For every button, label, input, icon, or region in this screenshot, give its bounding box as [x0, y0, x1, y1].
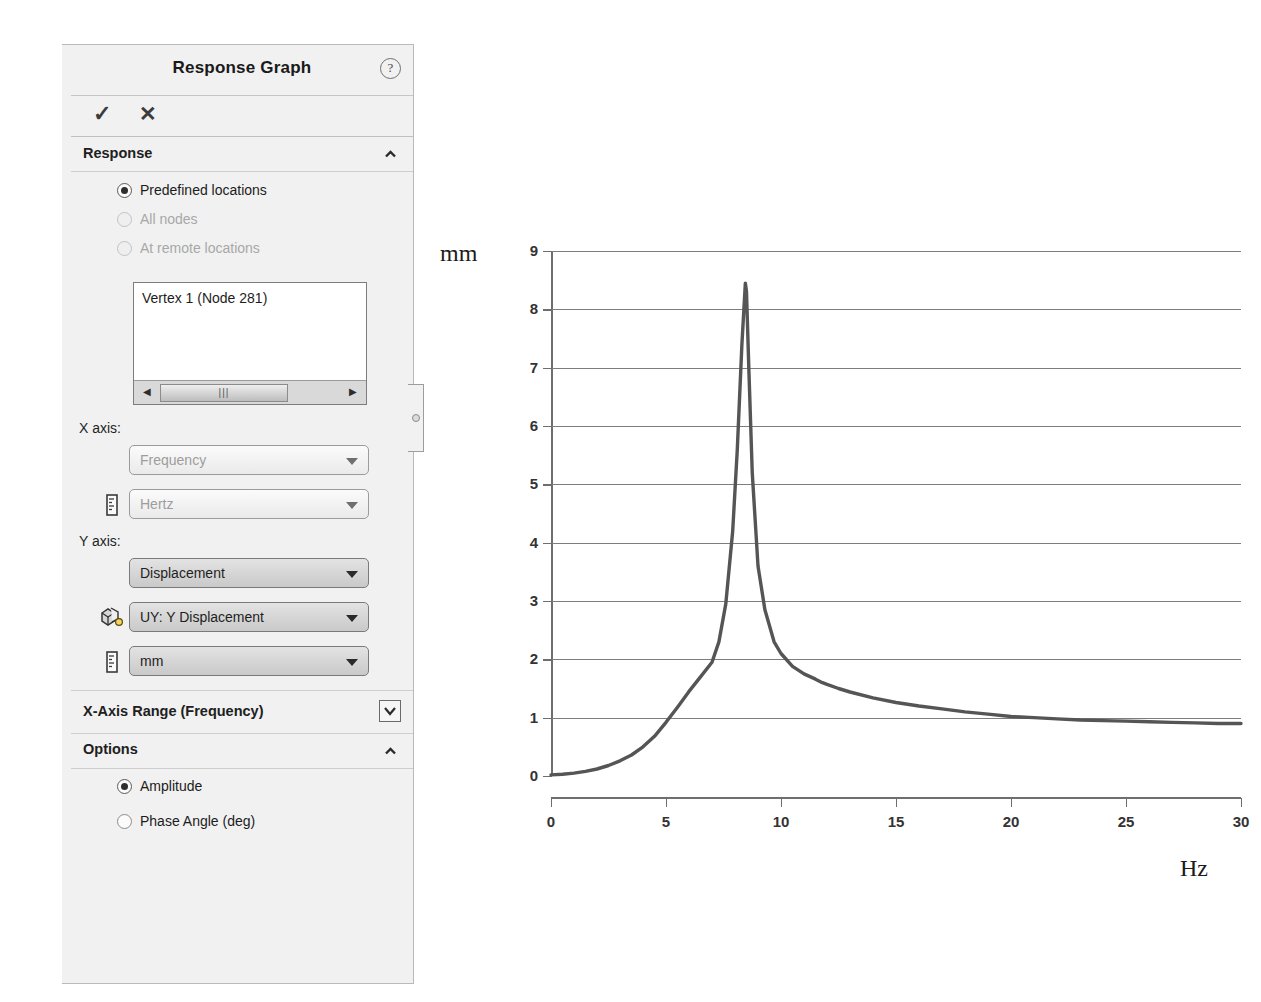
section-header-options[interactable]: Options	[71, 732, 413, 769]
x-axis-tick-label: 15	[888, 813, 905, 830]
x-axis-tick	[1126, 798, 1127, 807]
x-units-combo[interactable]: Hertz	[129, 489, 369, 519]
y-axis-tick-label: 1	[516, 709, 538, 726]
chevron-down-icon[interactable]	[346, 571, 358, 578]
x-axis-tick	[1241, 798, 1242, 807]
x-axis-title: Hz	[1180, 855, 1208, 882]
close-icon[interactable]: ✕	[139, 102, 157, 126]
x-axis-tick	[781, 798, 782, 807]
x-axis-tick	[1011, 798, 1012, 807]
plot-area: 0123456789 051015202530	[551, 251, 1241, 776]
y-axis-tick-label: 7	[516, 359, 538, 376]
y-axis-field-label: Y axis:	[79, 533, 121, 549]
radio-predefined-locations[interactable]	[117, 183, 132, 198]
component-cube-icon	[99, 605, 121, 629]
radio-row-all-nodes[interactable]: All nodes	[71, 206, 413, 235]
radio-row-phase-angle[interactable]: Phase Angle (deg)	[71, 808, 413, 837]
response-curve	[551, 251, 1241, 797]
radio-row-predefined-locations[interactable]: Predefined locations	[71, 177, 413, 206]
y-quantity-value: Displacement	[140, 565, 225, 581]
y-units-combo[interactable]: mm	[129, 646, 369, 676]
page-title: Response Graph	[71, 58, 413, 78]
x-axis-tick-label: 10	[773, 813, 790, 830]
radio-row-amplitude[interactable]: Amplitude	[71, 773, 413, 802]
section-title-options: Options	[83, 741, 138, 757]
panel-header: Response Graph ?	[71, 45, 413, 96]
panel-actions-bar: ✓ ✕	[71, 96, 413, 137]
scroll-right-arrow-icon[interactable]: ▶	[346, 385, 360, 399]
panel-tab-dot-icon	[412, 414, 420, 422]
y-component-value: UY: Y Displacement	[140, 609, 264, 625]
scrollbar-thumb[interactable]: |||	[160, 384, 288, 402]
chevron-down-box-icon[interactable]	[379, 700, 401, 722]
radio-row-at-remote-locations[interactable]: At remote locations	[71, 235, 413, 264]
response-graph-chart: mm Hz 0123456789 051015202530	[440, 230, 1250, 910]
chevron-up-icon[interactable]	[384, 745, 397, 758]
chevron-down-icon[interactable]	[346, 458, 358, 465]
list-item[interactable]: Vertex 1 (Node 281)	[142, 290, 267, 306]
y-axis-tick-label: 2	[516, 650, 538, 667]
radio-label-amplitude: Amplitude	[140, 778, 202, 794]
y-axis-tick-label: 3	[516, 592, 538, 609]
radio-at-remote-locations[interactable]	[117, 241, 132, 256]
y-component-combo[interactable]: UY: Y Displacement	[129, 602, 369, 632]
radio-amplitude[interactable]	[117, 779, 132, 794]
property-manager-panel: Response Graph ? ✓ ✕ Response Predefined…	[62, 44, 414, 984]
radio-label-predefined-locations: Predefined locations	[140, 182, 267, 198]
units-ruler-icon	[101, 493, 123, 517]
chevron-down-icon[interactable]	[346, 615, 358, 622]
radio-label-phase-angle: Phase Angle (deg)	[140, 813, 255, 829]
x-quantity-combo[interactable]: Frequency	[129, 445, 369, 475]
y-axis-tick-label: 5	[516, 475, 538, 492]
listbox-horizontal-scrollbar[interactable]: ◀ ||| ▶	[134, 380, 366, 404]
selection-listbox[interactable]: Vertex 1 (Node 281) ◀ ||| ▶	[133, 282, 367, 405]
x-axis-field-label: X axis:	[79, 420, 121, 436]
chevron-down-icon[interactable]	[346, 502, 358, 509]
chevron-down-icon[interactable]	[346, 659, 358, 666]
help-icon[interactable]: ?	[380, 58, 401, 79]
x-axis-tick	[896, 798, 897, 807]
section-title-response: Response	[83, 145, 152, 161]
chevron-up-icon[interactable]	[384, 148, 397, 161]
radio-all-nodes[interactable]	[117, 212, 132, 227]
y-axis-tick-label: 9	[516, 242, 538, 259]
units-ruler-icon	[101, 650, 123, 674]
x-units-value: Hertz	[140, 496, 173, 512]
x-axis-tick-label: 0	[547, 813, 555, 830]
x-quantity-value: Frequency	[140, 452, 206, 468]
y-axis-title: mm	[440, 240, 477, 267]
checkmark-icon[interactable]: ✓	[93, 102, 111, 126]
x-axis-tick-label: 20	[1003, 813, 1020, 830]
x-axis-tick-label: 30	[1233, 813, 1250, 830]
section-header-x-axis-range[interactable]: X-Axis Range (Frequency)	[71, 690, 413, 734]
scroll-left-arrow-icon[interactable]: ◀	[140, 385, 154, 399]
y-units-value: mm	[140, 653, 163, 669]
x-axis-tick-label: 25	[1118, 813, 1135, 830]
x-axis-tick-label: 5	[662, 813, 670, 830]
x-axis-tick	[666, 798, 667, 807]
radio-phase-angle[interactable]	[117, 814, 132, 829]
y-quantity-combo[interactable]: Displacement	[129, 558, 369, 588]
y-axis-tick-label: 0	[516, 767, 538, 784]
y-axis-tick-label: 8	[516, 300, 538, 317]
radio-label-all-nodes: All nodes	[140, 211, 198, 227]
section-header-response[interactable]: Response	[71, 137, 413, 172]
y-axis-tick-label: 6	[516, 417, 538, 434]
y-axis-tick-label: 4	[516, 534, 538, 551]
radio-label-at-remote-locations: At remote locations	[140, 240, 260, 256]
section-title-x-axis-range: X-Axis Range (Frequency)	[83, 703, 264, 719]
panel-resize-tab[interactable]	[408, 384, 424, 452]
x-axis-tick	[551, 798, 552, 807]
